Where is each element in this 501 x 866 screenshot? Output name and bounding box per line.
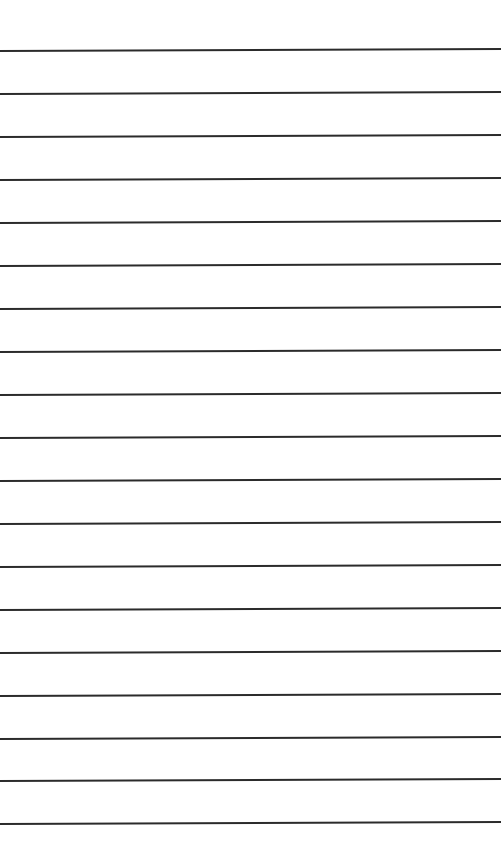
lined-paper [0,0,501,866]
ruled-line [0,91,501,95]
ruled-line [0,134,501,138]
ruled-line [0,349,501,353]
ruled-line [0,392,501,396]
ruled-line [0,220,501,224]
ruled-line [0,607,501,611]
ruled-line [0,521,501,525]
ruled-line [0,564,501,568]
ruled-line [0,736,501,740]
ruled-line [0,263,501,267]
ruled-line [0,478,501,482]
ruled-line [0,650,501,654]
ruled-line [0,821,501,825]
ruled-line [0,177,501,181]
ruled-line [0,435,501,439]
ruled-line [0,306,501,310]
ruled-line [0,778,501,782]
ruled-line [0,693,501,697]
ruled-line [0,48,501,52]
